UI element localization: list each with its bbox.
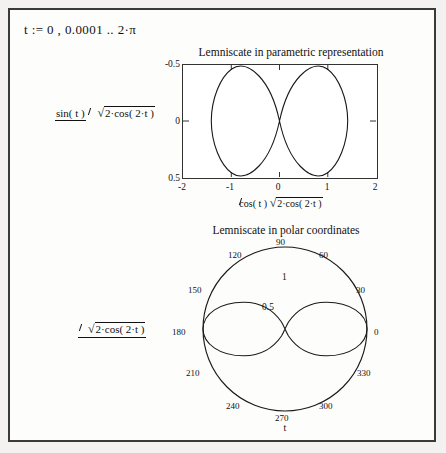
radical-body: 2·cos( 2·t ) [276, 197, 322, 209]
polar-angle-label-240: 240 [226, 401, 240, 411]
polar-angle-label-210: 210 [186, 368, 200, 378]
chart-parametric[interactable]: Lemniscate in parametric representation … [156, 46, 406, 218]
x-tick-label-0: -2 [170, 182, 194, 192]
polar-radial-label-0-5: 0.5 [262, 302, 274, 312]
chart-parametric-plot-area[interactable] [182, 64, 378, 179]
chart-parametric-xaxis-label[interactable]: cos( t ) √2·cos( 2·t ) [186, 196, 376, 211]
radical-group: √2·cos( 2·t ) [88, 106, 154, 120]
radical-body: 2·cos( 2·t ) [95, 322, 146, 335]
polar-angle-label-300: 300 [319, 401, 333, 411]
expression-polar-r[interactable]: √2·cos( 2·t ) [78, 322, 146, 338]
mathcad-worksheet: t := 0 , 0.0001 .. 2·π sin( t ) √2·cos( … [8, 8, 436, 442]
expression-parametric-y[interactable]: sin( t ) √2·cos( 2·t ) [55, 106, 155, 121]
numerator-text: sin( t ) [55, 107, 86, 121]
y-tick-label-1: 0 [156, 116, 180, 126]
polar-angle-label-330: 330 [357, 368, 371, 378]
y-tick-label-0: -0.5 [156, 59, 180, 69]
x-tick-label-3: 1 [315, 182, 339, 192]
radical-sign: √ [88, 322, 95, 336]
polar-angle-label-90: 90 [276, 237, 285, 247]
polar-angle-label-150: 150 [188, 285, 202, 295]
radical-sign: √ [97, 106, 104, 120]
polar-angle-label-180: 180 [172, 327, 186, 337]
polar-lemniscate-curve [203, 302, 367, 356]
fraction-numerator-sin-t: sin( t ) [55, 107, 86, 121]
chart-polar-plot-area[interactable] [200, 244, 370, 414]
radical-group: √2·cos( 2·t ) [79, 322, 145, 336]
chart-parametric-svg [183, 65, 376, 177]
fraction-wrapper: √2·cos( 2·t ) [78, 322, 146, 338]
radical-body: 2·cos( 2·t ) [104, 106, 155, 119]
lemniscate-curve [211, 66, 347, 176]
chart-polar[interactable]: Lemniscate in polar coordinates 0 30 60 … [156, 224, 416, 436]
polar-angle-label-120: 120 [228, 250, 242, 260]
polar-radial-label-1: 1 [282, 272, 287, 282]
polar-angle-label-0: 0 [374, 327, 379, 337]
numerator-radical: √2·cos( 2·t ) [78, 322, 146, 338]
x-tick-label-2: 0 [266, 182, 290, 192]
chart-parametric-title: Lemniscate in parametric representation [176, 46, 406, 58]
polar-angle-label-60: 60 [319, 250, 328, 260]
range-variable-definition[interactable]: t := 0 , 0.0001 .. 2·π [24, 22, 136, 38]
chart-polar-parameter-label: t [200, 422, 370, 433]
chart-polar-svg [200, 244, 370, 414]
xaxis-expression: cos( t ) √2·cos( 2·t ) [239, 196, 322, 211]
chart-polar-title: Lemniscate in polar coordinates [162, 224, 410, 236]
x-tick-label-4: 2 [363, 182, 387, 192]
xaxis-cos-term: cos( t ) [239, 198, 269, 209]
radical-sign: √ [270, 196, 277, 210]
x-tick-label-1: -1 [218, 182, 242, 192]
polar-angle-label-30: 30 [356, 285, 365, 295]
